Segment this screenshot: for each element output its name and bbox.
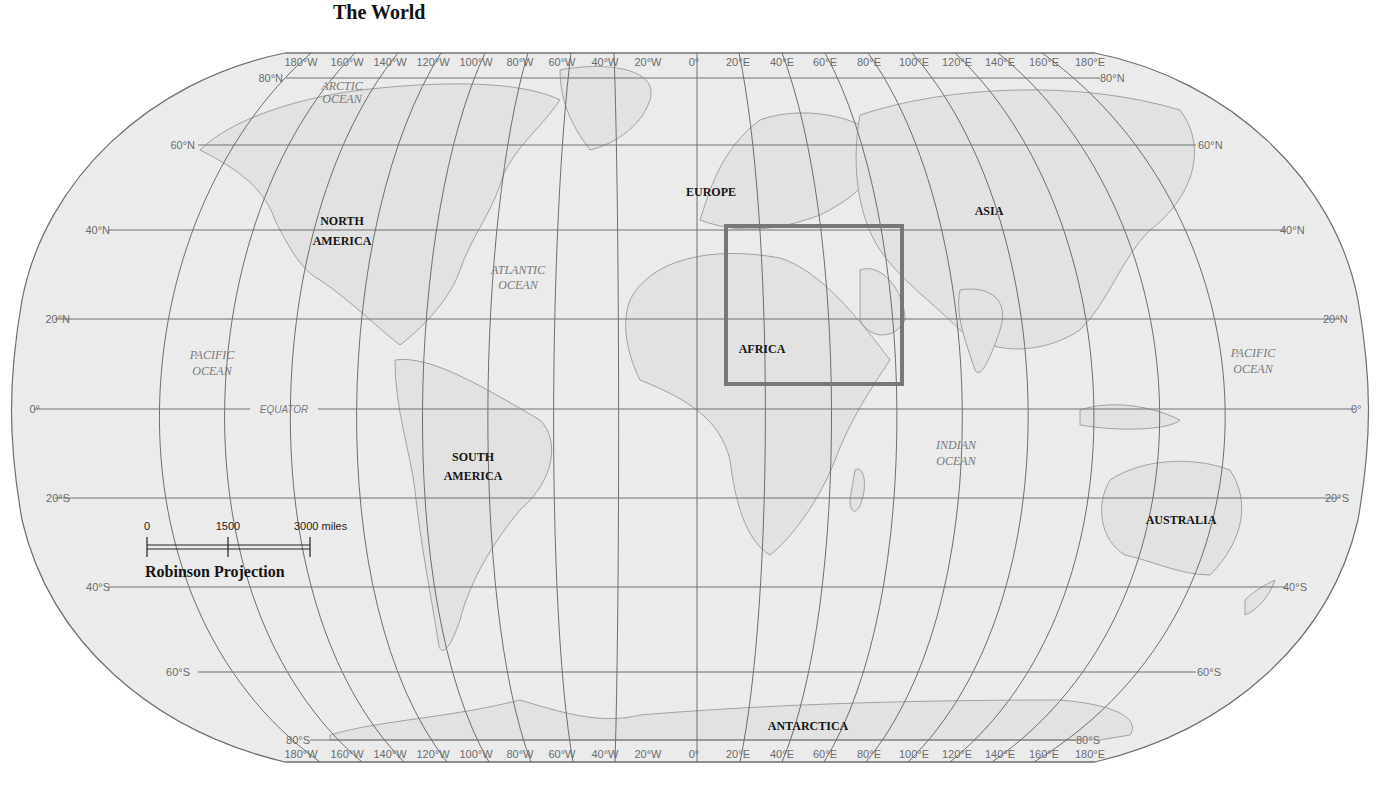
svg-text:160°E: 160°E — [1029, 56, 1059, 68]
svg-text:100°W: 100°W — [459, 748, 493, 760]
svg-text:40°E: 40°E — [770, 748, 794, 760]
svg-text:40°S: 40°S — [1283, 581, 1307, 593]
label-arctic-2: OCEAN — [322, 92, 362, 106]
world-map: 180°W 160°W 140°W 120°W 100°W 80°W 60°W … — [0, 0, 1383, 792]
svg-text:20°W: 20°W — [634, 748, 662, 760]
svg-text:40°W: 40°W — [591, 56, 619, 68]
label-south-america-1: SOUTH — [452, 450, 495, 464]
label-pacific-west-1: PACIFIC — [189, 348, 235, 362]
label-north-america-1: NORTH — [320, 214, 364, 228]
scale-label-1500: 1500 — [216, 520, 240, 532]
svg-text:40°S: 40°S — [86, 581, 110, 593]
svg-text:40°W: 40°W — [591, 748, 619, 760]
svg-text:20°E: 20°E — [726, 748, 750, 760]
svg-text:20°E: 20°E — [726, 56, 750, 68]
svg-text:140°E: 140°E — [985, 748, 1015, 760]
label-pacific-east-1: PACIFIC — [1230, 346, 1276, 360]
svg-text:100°W: 100°W — [459, 56, 493, 68]
label-indian-2: OCEAN — [936, 454, 976, 468]
label-antarctica: ANTARCTICA — [768, 719, 849, 733]
svg-text:140°W: 140°W — [373, 748, 407, 760]
svg-text:120°E: 120°E — [942, 56, 972, 68]
svg-text:160°W: 160°W — [330, 56, 364, 68]
svg-text:80°S: 80°S — [286, 734, 310, 746]
svg-text:60°W: 60°W — [548, 56, 576, 68]
label-indian-1: INDIAN — [935, 438, 977, 452]
svg-text:20°S: 20°S — [1325, 492, 1349, 504]
label-pacific-west-2: OCEAN — [192, 364, 232, 378]
svg-text:20°S: 20°S — [46, 492, 70, 504]
svg-text:80°S: 80°S — [1076, 734, 1100, 746]
label-atlantic-1: ATLANTIC — [490, 263, 546, 277]
scale-label-0: 0 — [144, 520, 150, 532]
svg-text:100°E: 100°E — [899, 56, 929, 68]
svg-text:0°: 0° — [1351, 403, 1362, 415]
label-australia: AUSTRALIA — [1146, 513, 1217, 527]
label-south-america-2: AMERICA — [444, 469, 503, 483]
label-africa: AFRICA — [739, 342, 786, 356]
svg-text:0°: 0° — [689, 56, 700, 68]
svg-text:40°E: 40°E — [770, 56, 794, 68]
svg-text:120°E: 120°E — [942, 748, 972, 760]
svg-text:180°E: 180°E — [1075, 56, 1105, 68]
svg-text:120°W: 120°W — [416, 748, 450, 760]
label-north-america-2: AMERICA — [313, 234, 372, 248]
svg-text:60°S: 60°S — [1197, 666, 1221, 678]
svg-text:140°E: 140°E — [985, 56, 1015, 68]
label-europe: EUROPE — [686, 185, 736, 199]
label-atlantic-2: OCEAN — [498, 278, 538, 292]
svg-text:160°W: 160°W — [330, 748, 364, 760]
svg-text:60°E: 60°E — [813, 748, 837, 760]
svg-text:100°E: 100°E — [899, 748, 929, 760]
svg-text:0°: 0° — [689, 748, 700, 760]
svg-text:20°N: 20°N — [45, 313, 70, 325]
svg-text:60°W: 60°W — [548, 748, 576, 760]
label-pacific-east-2: OCEAN — [1233, 362, 1273, 376]
svg-text:140°W: 140°W — [373, 56, 407, 68]
svg-text:40°N: 40°N — [85, 224, 110, 236]
svg-text:0°: 0° — [29, 403, 40, 415]
svg-text:180°W: 180°W — [284, 748, 318, 760]
svg-text:180°E: 180°E — [1075, 748, 1105, 760]
svg-text:60°N: 60°N — [170, 139, 195, 151]
svg-text:20°N: 20°N — [1323, 313, 1348, 325]
svg-text:120°W: 120°W — [416, 56, 450, 68]
svg-text:160°E: 160°E — [1029, 748, 1059, 760]
svg-text:60°N: 60°N — [1198, 139, 1223, 151]
svg-text:80°W: 80°W — [506, 56, 534, 68]
label-arctic-1: ARCTIC — [320, 79, 363, 93]
svg-text:80°N: 80°N — [258, 72, 283, 84]
scale-label-3000: 3000 miles — [294, 520, 348, 532]
svg-text:80°W: 80°W — [506, 748, 534, 760]
equator-label: EQUATOR — [260, 404, 309, 415]
svg-text:80°E: 80°E — [857, 748, 881, 760]
projection-label: Robinson Projection — [145, 563, 285, 581]
label-asia: ASIA — [975, 204, 1004, 218]
svg-text:80°N: 80°N — [1100, 72, 1125, 84]
svg-text:60°E: 60°E — [813, 56, 837, 68]
svg-text:80°E: 80°E — [857, 56, 881, 68]
svg-text:60°S: 60°S — [166, 666, 190, 678]
svg-text:40°N: 40°N — [1280, 224, 1305, 236]
svg-text:20°W: 20°W — [634, 56, 662, 68]
svg-text:180°W: 180°W — [284, 56, 318, 68]
